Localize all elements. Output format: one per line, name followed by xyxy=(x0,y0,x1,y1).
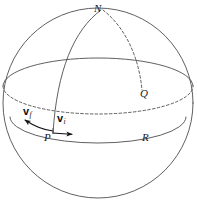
label-north-pole: N xyxy=(94,3,101,14)
label-vector-v-initial: vi xyxy=(57,113,65,124)
sphere-outline xyxy=(3,8,193,198)
meridian-n-to-q xyxy=(103,10,142,90)
label-vector-v-initial-subscript: i xyxy=(63,117,65,126)
label-point-r: R xyxy=(142,132,149,143)
equator-front-arc xyxy=(3,58,193,86)
label-vector-v-final-subscript: f xyxy=(29,110,31,119)
vector-v-final-arrow xyxy=(25,120,53,131)
sphere-diagram-canvas xyxy=(0,0,197,207)
vector-v-initial-arrow xyxy=(53,133,72,134)
label-vector-v-final: vf xyxy=(23,106,31,117)
label-point-p: P xyxy=(44,132,51,143)
sphere-diagram: N Q P R vf vi xyxy=(0,0,197,207)
label-point-q: Q xyxy=(140,88,148,99)
latitude-circle-through-p xyxy=(10,117,186,143)
